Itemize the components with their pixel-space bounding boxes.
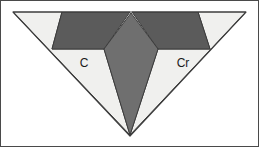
region-label-c: C (80, 56, 89, 70)
figure-root: C Cr (0, 0, 259, 147)
triangle-diagram: C Cr (0, 0, 259, 147)
region-label-cr: Cr (177, 56, 190, 70)
